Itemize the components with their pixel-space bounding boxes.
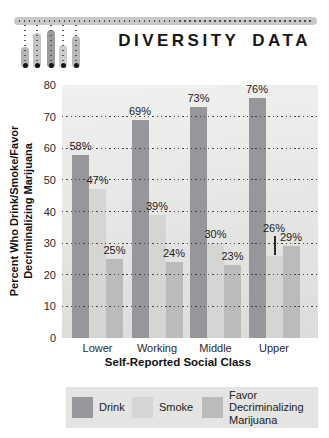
label-leader-line — [274, 236, 276, 255]
value-label: 30% — [204, 228, 226, 240]
legend-label: Drink — [99, 401, 125, 414]
y-tick-label: 40 — [30, 206, 56, 218]
y-tick-label: 50 — [30, 174, 56, 186]
grid-line — [62, 306, 318, 307]
value-label: 39% — [146, 200, 168, 212]
chart-legend: Drink Smoke Favor Decriminalizing Mariju… — [66, 387, 318, 428]
hanging-bar-icon — [47, 25, 55, 70]
value-label: 47% — [86, 174, 108, 186]
value-label: 25% — [103, 244, 125, 256]
y-tick-label: 10 — [30, 300, 56, 312]
legend-item-favor-decriminalizing: Favor Decriminalizing Marijuana — [202, 387, 304, 428]
diversity-data-page: DIVERSITY DATA Percent Who Drink/Smoke/F… — [0, 0, 329, 438]
smoke-swatch-icon — [132, 397, 153, 418]
y-tick-label: 20 — [30, 269, 56, 281]
legend-label: Favor Decriminalizing Marijuana — [229, 389, 304, 427]
y-tick-label: 70 — [30, 111, 56, 123]
value-label: 24% — [163, 247, 185, 259]
bar-smoke-working — [149, 215, 166, 338]
y-tick-label: 0 — [30, 332, 56, 344]
value-label: 29% — [280, 231, 302, 243]
legend-label: Smoke — [159, 401, 193, 414]
value-label: 69% — [129, 105, 151, 117]
y-tick-label: 60 — [30, 142, 56, 154]
bar-drink-upper — [249, 98, 266, 338]
y-tick-label: 30 — [30, 237, 56, 249]
drink-swatch-icon — [72, 397, 93, 418]
bar-drink-middle — [190, 107, 207, 338]
bar-favor-upper — [283, 246, 300, 338]
value-label: 73% — [187, 92, 209, 104]
x-category-label: Upper — [239, 342, 309, 354]
value-label: 23% — [221, 250, 243, 262]
grid-line — [62, 211, 318, 212]
value-label: 58% — [69, 140, 91, 152]
grid-line — [62, 148, 318, 149]
bar-smoke-upper — [266, 256, 283, 338]
grid-line — [62, 274, 318, 275]
bar-favor-middle — [224, 265, 241, 338]
y-tick-label: 80 — [30, 79, 56, 91]
grid-line — [62, 116, 318, 117]
x-axis-title: Self-Reported Social Class — [62, 356, 294, 368]
value-label: 76% — [246, 83, 268, 95]
favor-swatch-icon — [202, 397, 223, 418]
plot-area: 58%47%25%69%39%24%73%30%23%76%26%29% — [62, 85, 318, 338]
legend-item-smoke: Smoke — [132, 387, 193, 428]
bar-favor-lower — [106, 259, 123, 338]
legend-item-drink: Drink — [72, 387, 125, 428]
